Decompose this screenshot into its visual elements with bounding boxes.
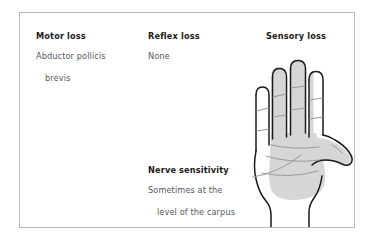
hand-shaded-region [269, 60, 351, 200]
reflex-loss-heading: Reflex loss [148, 31, 200, 41]
sensory-loss-heading: Sensory loss [266, 31, 326, 41]
motor-loss-line-1: Abductor pollicis [36, 51, 106, 63]
screenshot-root: Motor loss Abductor pollicis brevis Refl… [0, 0, 373, 241]
motor-loss-heading: Motor loss [36, 31, 106, 41]
reflex-loss-line-1: None [148, 51, 200, 63]
hand-palm-illustration [216, 53, 355, 228]
column-motor-loss: Motor loss Abductor pollicis brevis [36, 31, 106, 84]
column-sensory-loss: Sensory loss [266, 31, 326, 41]
nerve-summary-card: Motor loss Abductor pollicis brevis Refl… [19, 12, 355, 228]
motor-loss-line-2: brevis [36, 73, 106, 85]
hand-diagram-svg [216, 53, 355, 228]
column-reflex-loss: Reflex loss None [148, 31, 200, 63]
